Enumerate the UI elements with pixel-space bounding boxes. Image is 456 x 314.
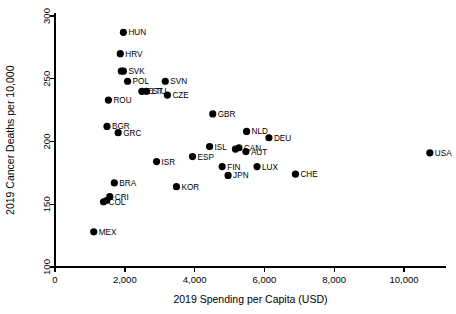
- data-point-marker: [242, 148, 249, 155]
- data-point-marker: [103, 123, 110, 130]
- data-point-label: DEU: [274, 134, 291, 143]
- data-point-label: BRA: [119, 179, 136, 188]
- data-point-label: CHE: [300, 170, 318, 179]
- data-point-marker: [206, 143, 213, 150]
- data-point-label: KOR: [181, 183, 199, 192]
- data-point-marker: [103, 197, 110, 204]
- data-point-marker: [118, 68, 125, 75]
- data-point-marker: [111, 179, 118, 186]
- y-tick-label: 200: [41, 134, 52, 150]
- x-axis-title: 2019 Spending per Capita (USD): [173, 293, 327, 305]
- x-tick-label: 0: [52, 274, 57, 285]
- data-point-marker: [143, 88, 150, 95]
- data-point-label: ISL: [215, 143, 228, 152]
- data-point-label: SVK: [128, 67, 145, 76]
- x-tick-label: 10,000: [389, 274, 418, 285]
- data-point-label: HRV: [125, 50, 143, 59]
- data-point-marker: [164, 91, 171, 98]
- y-tick-label: 150: [41, 196, 52, 212]
- data-point-marker: [232, 145, 239, 152]
- data-point-label: USA: [435, 149, 452, 158]
- x-tick-label: 2,000: [113, 274, 137, 285]
- data-point-label: AUT: [251, 148, 267, 157]
- scatter-plot-figure: 10015020025030002,0004,0006,0008,00010,0…: [0, 0, 456, 314]
- data-point-marker: [225, 172, 232, 179]
- data-point-marker: [173, 183, 180, 190]
- data-point-marker: [243, 128, 250, 135]
- chart-canvas: 10015020025030002,0004,0006,0008,00010,0…: [0, 0, 456, 314]
- data-point-label: SVN: [170, 77, 187, 86]
- data-point-label: ISR: [162, 158, 176, 167]
- data-point-label: LUX: [262, 163, 278, 172]
- y-tick-label: 300: [41, 8, 52, 24]
- data-point-label: POL: [133, 77, 150, 86]
- data-point-marker: [105, 96, 112, 103]
- data-point-marker: [120, 29, 127, 36]
- data-point-label: NLD: [252, 127, 268, 136]
- data-point-marker: [219, 163, 226, 170]
- data-point-label: MEX: [99, 228, 117, 237]
- x-tick-label: 8,000: [322, 274, 346, 285]
- data-point-label: ESP: [198, 153, 215, 162]
- x-tick-label: 4,000: [183, 274, 207, 285]
- data-point-marker: [253, 163, 260, 170]
- y-tick-label: 250: [41, 71, 52, 87]
- y-axis-title: 2019 Cancer Deaths per 10,000: [4, 65, 16, 215]
- data-point-label: GRC: [123, 129, 141, 138]
- y-tick-label: 100: [41, 259, 52, 275]
- data-point-label: GBR: [218, 110, 236, 119]
- data-point-label: ROU: [113, 96, 131, 105]
- data-point-marker: [189, 153, 196, 160]
- data-point-marker: [209, 110, 216, 117]
- data-point-marker: [124, 78, 131, 85]
- data-point-marker: [292, 171, 299, 178]
- data-point-label: CZE: [172, 91, 189, 100]
- data-point-label: HUN: [128, 28, 146, 37]
- data-point-label: COL: [109, 198, 126, 207]
- data-point-marker: [426, 149, 433, 156]
- data-point-marker: [117, 50, 124, 57]
- data-point-marker: [265, 134, 272, 141]
- data-point-group: HUNHRVSVKPOLSVNESTLTUCZEROUGBRBGRGRCNLDD…: [90, 28, 452, 237]
- data-point-label: JPN: [233, 171, 249, 180]
- data-point-marker: [162, 78, 169, 85]
- x-tick-label: 6,000: [253, 274, 277, 285]
- data-point-marker: [115, 129, 122, 136]
- data-point-label: FIN: [227, 163, 240, 172]
- data-point-marker: [90, 228, 97, 235]
- data-point-marker: [153, 158, 160, 165]
